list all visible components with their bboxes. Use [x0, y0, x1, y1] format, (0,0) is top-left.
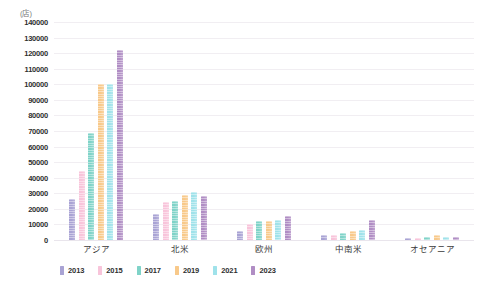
y-axis-tick-label: 120000 — [24, 49, 48, 58]
bar[interactable] — [266, 221, 272, 240]
y-axis-tick-label: 60000 — [28, 142, 48, 151]
legend-label: 2017 — [145, 266, 161, 275]
bar[interactable] — [331, 235, 337, 240]
plot-area: 1400001300001200001100001000009000080000… — [0, 22, 480, 240]
legend: 201320152017201920212023 — [54, 266, 474, 275]
bar[interactable] — [359, 230, 365, 240]
bar[interactable] — [247, 224, 253, 240]
y-axis-tick-label: 10000 — [28, 220, 48, 229]
y-axis-tick-label: 90000 — [28, 95, 48, 104]
bar[interactable] — [369, 220, 375, 240]
bar[interactable] — [424, 237, 430, 240]
y-axis-tick-label: 40000 — [28, 173, 48, 182]
x-axis-labels: アジア北米欧州中南米オセアニア — [54, 242, 474, 254]
bar[interactable] — [285, 216, 291, 240]
legend-item[interactable]: 2023 — [251, 266, 275, 275]
bar[interactable] — [405, 238, 411, 240]
legend-swatch-icon — [251, 266, 255, 275]
y-axis-tick-label: 80000 — [28, 111, 48, 120]
y-axis: 1400001300001200001100001000009000080000… — [0, 22, 52, 240]
bar-chart: (店) 140000130000120000110000100000900008… — [0, 0, 480, 291]
y-axis-unit-label: (店) — [20, 7, 32, 18]
x-axis-label: オセアニア — [390, 242, 474, 254]
gridline — [54, 240, 474, 241]
legend-swatch-icon — [98, 266, 102, 275]
bar[interactable] — [107, 84, 113, 240]
y-axis-tick-label: 0 — [44, 236, 48, 245]
legend-item[interactable]: 2021 — [213, 266, 237, 275]
y-axis-tick-label: 20000 — [28, 204, 48, 213]
bar[interactable] — [182, 195, 188, 240]
bar[interactable] — [117, 50, 123, 240]
bar-group — [54, 22, 138, 240]
legend-swatch-icon — [213, 266, 217, 275]
x-axis-label: 欧州 — [222, 242, 306, 254]
legend-swatch-icon — [137, 266, 141, 275]
bar[interactable] — [275, 220, 281, 240]
bar[interactable] — [88, 133, 94, 240]
bar-group — [138, 22, 222, 240]
legend-item[interactable]: 2015 — [98, 266, 122, 275]
bar-group — [390, 22, 474, 240]
bar[interactable] — [256, 221, 262, 240]
y-axis-tick-label: 50000 — [28, 158, 48, 167]
legend-label: 2015 — [106, 266, 122, 275]
x-axis-label: 北米 — [138, 242, 222, 254]
bar[interactable] — [79, 171, 85, 240]
y-axis-tick-label: 30000 — [28, 189, 48, 198]
y-axis-tick-label: 70000 — [28, 127, 48, 136]
bar-group — [222, 22, 306, 240]
legend-item[interactable]: 2013 — [60, 266, 84, 275]
legend-label: 2021 — [221, 266, 237, 275]
x-axis-label: アジア — [54, 242, 138, 254]
legend-label: 2019 — [183, 266, 199, 275]
bar[interactable] — [98, 84, 104, 240]
y-axis-tick-label: 110000 — [25, 64, 48, 73]
y-axis-tick-label: 140000 — [24, 18, 48, 27]
bar[interactable] — [191, 192, 197, 240]
bar[interactable] — [350, 231, 356, 240]
bar[interactable] — [172, 201, 178, 240]
legend-label: 2023 — [259, 266, 275, 275]
legend-swatch-icon — [175, 266, 179, 275]
legend-item[interactable]: 2017 — [137, 266, 161, 275]
bar[interactable] — [153, 214, 159, 240]
bar[interactable] — [453, 237, 459, 240]
bar[interactable] — [163, 202, 169, 240]
bar[interactable] — [69, 199, 75, 240]
y-axis-tick-label: 100000 — [24, 80, 48, 89]
bar[interactable] — [237, 231, 243, 240]
bar[interactable] — [443, 237, 449, 240]
y-axis-tick-label: 130000 — [24, 33, 48, 42]
x-axis-label: 中南米 — [306, 242, 390, 254]
bar[interactable] — [321, 235, 327, 240]
legend-item[interactable]: 2019 — [175, 266, 199, 275]
bar[interactable] — [415, 238, 421, 240]
bar-groups — [54, 22, 474, 240]
bar[interactable] — [201, 196, 207, 240]
legend-label: 2013 — [68, 266, 84, 275]
legend-swatch-icon — [60, 266, 64, 275]
bar[interactable] — [340, 233, 346, 240]
bar-group — [306, 22, 390, 240]
bar[interactable] — [434, 235, 440, 240]
